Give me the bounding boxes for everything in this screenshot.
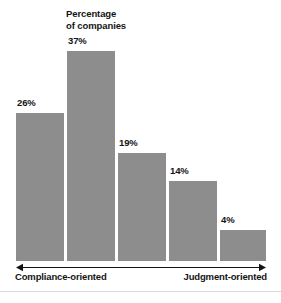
bar-group: 26% <box>16 0 64 261</box>
bar-value-label: 19% <box>119 137 138 148</box>
bar-group: 19% <box>118 0 166 261</box>
bottom-divider <box>0 291 281 292</box>
plot-area: 26% 37% 19% 14% 4% <box>0 0 281 261</box>
bar-rect[interactable] <box>16 113 64 261</box>
bar-value-label: 14% <box>170 165 189 176</box>
bar-group: 14% <box>169 0 217 261</box>
axis-label-compliance-oriented: Compliance-oriented <box>15 271 107 282</box>
bar-rect[interactable] <box>118 153 166 261</box>
bar-value-label: 26% <box>17 97 36 108</box>
bar-group: 4% <box>220 0 266 261</box>
bar-chart-figure: Percentageof companies 26% 37% 19% 14% 4… <box>0 0 281 303</box>
bar-value-label: 37% <box>68 35 87 46</box>
bar-rect[interactable] <box>220 230 266 261</box>
bar-rect[interactable] <box>169 181 217 261</box>
bar-group: 37% <box>67 0 115 261</box>
axis-label-judgment-oriented: Judgment-oriented <box>184 271 267 282</box>
bar-value-label: 4% <box>221 214 235 225</box>
bar-rect[interactable] <box>67 51 115 261</box>
